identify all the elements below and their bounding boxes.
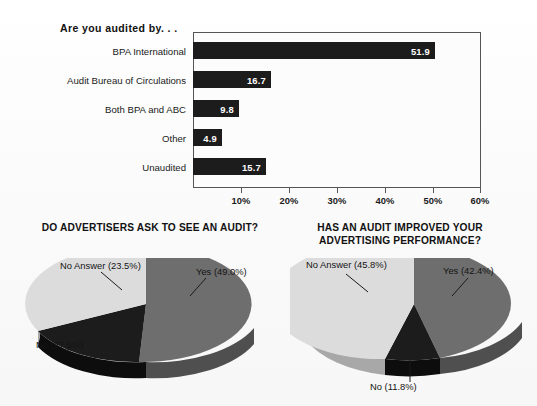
axis-tick-label: 50% bbox=[424, 195, 443, 206]
bar-category-label: BPA International bbox=[113, 45, 186, 56]
bar-category-label: Other bbox=[162, 132, 186, 143]
bar-chart: Are you audited by. . . BPA Internationa… bbox=[0, 0, 537, 212]
pie-right-label-yes: Yes (42.4%) bbox=[443, 265, 494, 276]
pie-right-title-line2: ADVERTISING PERFORMANCE? bbox=[285, 234, 515, 247]
bar-row: Unaudited 15.7 bbox=[193, 158, 266, 175]
bar-rect: 9.8 bbox=[193, 100, 239, 117]
bar-row: Audit Bureau of Circulations 16.7 bbox=[193, 71, 271, 88]
pie-left-label-noanswer: No Answer (23.5%) bbox=[60, 260, 141, 271]
bar-chart-title: Are you audited by. . . bbox=[60, 22, 178, 34]
bar-value-label: 4.9 bbox=[203, 132, 217, 143]
bar-value-label: 9.8 bbox=[220, 103, 234, 114]
axis-tick-label: 20% bbox=[280, 195, 299, 206]
pie-right-label-no: No (11.8%) bbox=[370, 381, 417, 392]
pie-left-label-yes: Yes (49.0%) bbox=[196, 266, 247, 277]
pie-left-graphic bbox=[22, 258, 272, 393]
bar-row: Other 4.9 bbox=[193, 129, 222, 146]
bar-value-label: 15.7 bbox=[242, 161, 261, 172]
pie-right-graphic bbox=[290, 258, 537, 393]
axis-tick-label: 30% bbox=[328, 195, 347, 206]
bar-rect: 4.9 bbox=[193, 129, 222, 146]
axis-tick bbox=[337, 188, 338, 193]
bar-category-label: Unaudited bbox=[142, 161, 186, 172]
bar-chart-x-axis: 10% 20% 30% 40% 50% 60% bbox=[193, 188, 481, 212]
bar-rect: 51.9 bbox=[193, 42, 435, 59]
axis-tick bbox=[241, 188, 242, 193]
bar-row: Both BPA and ABC 9.8 bbox=[193, 100, 239, 117]
pie-right-title-line1: HAS AN AUDIT IMPROVED YOUR bbox=[285, 221, 515, 234]
axis-tick-label: 10% bbox=[232, 195, 251, 206]
bar-value-label: 51.9 bbox=[411, 45, 430, 56]
axis-tick-label: 40% bbox=[376, 195, 395, 206]
axis-tick bbox=[433, 188, 434, 193]
bar-value-label: 16.7 bbox=[247, 74, 266, 85]
bar-row: BPA International 51.9 bbox=[193, 42, 435, 59]
bar-category-label: Both BPA and ABC bbox=[105, 103, 186, 114]
axis-tick bbox=[385, 188, 386, 193]
axis-tick bbox=[289, 188, 290, 193]
figure-canvas: Are you audited by. . . BPA Internationa… bbox=[0, 0, 537, 406]
bar-category-label: Audit Bureau of Circulations bbox=[67, 74, 186, 85]
pie-left-label-no: No (27.5%) bbox=[36, 339, 83, 350]
axis-tick bbox=[480, 188, 481, 193]
pie-right-slice-no-side bbox=[385, 358, 440, 376]
bar-rect: 15.7 bbox=[193, 158, 266, 175]
pie-right-label-noanswer: No Answer (45.8%) bbox=[306, 259, 387, 270]
axis-tick-label: 60% bbox=[471, 195, 490, 206]
bar-rect: 16.7 bbox=[193, 71, 271, 88]
pie-left-title: DO ADVERTISERS ASK TO SEE AN AUDIT? bbox=[40, 221, 260, 234]
